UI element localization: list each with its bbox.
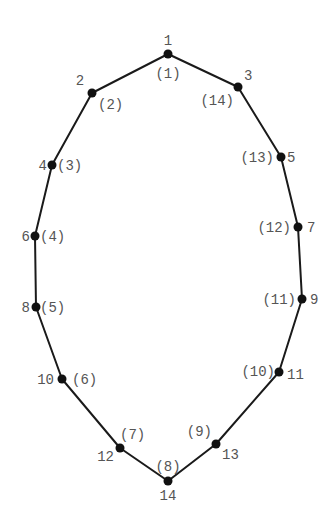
vertex-primary-label: 5 <box>287 150 295 166</box>
vertex-dot-11 <box>275 368 284 377</box>
vertex-dot-13 <box>212 440 221 449</box>
vertex-primary-label: 6 <box>22 229 30 245</box>
vertex-primary-label: 8 <box>22 300 30 316</box>
vertex-secondary-label: (2) <box>98 97 123 113</box>
vertex-secondary-label: (10) <box>241 364 275 380</box>
vertex-secondary-label: (6) <box>72 372 97 388</box>
vertex-secondary-label: (11) <box>262 292 296 308</box>
vertex-primary-label: 12 <box>97 449 114 465</box>
vertex-secondary-label: (14) <box>200 93 234 109</box>
vertex-secondary-label: (7) <box>120 427 145 443</box>
vertex-dot-10 <box>58 375 67 384</box>
vertex-secondary-label: (3) <box>57 158 82 174</box>
vertex-dot-2 <box>88 89 97 98</box>
vertex-secondary-label: (4) <box>40 229 65 245</box>
vertex-dot-4 <box>48 161 57 170</box>
vertex-dot-9 <box>298 295 307 304</box>
vertex-secondary-label: (13) <box>240 150 274 166</box>
vertex-secondary-label: (8) <box>155 459 180 475</box>
vertex-dot-6 <box>31 232 40 241</box>
vertex-dot-5 <box>277 153 286 162</box>
vertex-primary-label: 1 <box>164 33 172 49</box>
vertex-secondary-label: (5) <box>40 300 65 316</box>
vertex-dot-3 <box>234 83 243 92</box>
vertex-dot-1 <box>164 50 173 59</box>
vertex-primary-label: 4 <box>39 158 47 174</box>
vertex-primary-label: 2 <box>76 73 84 89</box>
vertex-secondary-label: (9) <box>187 424 212 440</box>
vertex-primary-label: 7 <box>307 220 315 236</box>
vertex-secondary-label: (1) <box>155 66 180 82</box>
vertex-secondary-label: (12) <box>257 220 291 236</box>
vertex-primary-label: 13 <box>222 447 239 463</box>
vertex-primary-label: 11 <box>287 367 304 383</box>
vertex-dot-7 <box>294 223 303 232</box>
vertex-primary-label: 14 <box>160 488 177 504</box>
polygon-diagram: 1(1)2(2)3(14)4(3)5(13)6(4)7(12)8(5)9(11)… <box>0 0 335 528</box>
vertex-dot-14 <box>164 477 173 486</box>
vertex-dot-12 <box>116 444 125 453</box>
vertex-primary-label: 3 <box>244 68 252 84</box>
vertex-primary-label: 9 <box>310 292 318 308</box>
vertex-primary-label: 10 <box>37 372 54 388</box>
